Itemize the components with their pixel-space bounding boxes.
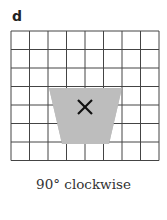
rotation-caption: 90° clockwise — [0, 176, 167, 192]
trapezoid-shape — [49, 88, 122, 144]
grid-diagram — [0, 0, 167, 170]
